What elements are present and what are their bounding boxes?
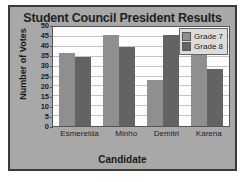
y-tick-label: 10: [41, 103, 49, 111]
y-tick-label: 35: [41, 53, 49, 61]
bar[interactable]: [207, 69, 223, 126]
x-axis-title: Candidate: [10, 154, 235, 165]
x-tick-label: Demitri: [154, 129, 179, 138]
bar-group: [147, 27, 179, 126]
bar[interactable]: [163, 35, 179, 126]
x-axis-tick-labels: EsmereldaMinhoDemitriKarena: [52, 129, 230, 138]
bar[interactable]: [59, 53, 75, 126]
bar[interactable]: [75, 57, 91, 126]
y-axis-tick-labels: 50454035302520151050: [34, 26, 49, 127]
legend-label: Grade 7: [194, 33, 223, 41]
bar[interactable]: [119, 47, 135, 126]
x-tick-label: Karena: [196, 129, 222, 138]
x-tick-label: Esmerelda: [60, 129, 98, 138]
y-tick-label: 20: [41, 83, 49, 91]
legend-item[interactable]: Grade 7: [182, 32, 223, 41]
y-tick-label: 30: [41, 63, 49, 71]
y-tick-label: 45: [41, 32, 49, 40]
y-axis-title: Number of Votes: [18, 25, 28, 103]
y-tick-label: 25: [41, 73, 49, 81]
legend-swatch-icon: [182, 32, 191, 41]
bar-group: [59, 27, 91, 126]
legend-item[interactable]: Grade 8: [182, 42, 223, 51]
chart-legend: Grade 7Grade 8: [179, 28, 228, 55]
legend-swatch-icon: [182, 42, 191, 51]
bar[interactable]: [147, 80, 163, 126]
y-tick-label: 40: [41, 42, 49, 50]
plot-wrapper: 50454035302520151050 EsmereldaMinhoDemit…: [52, 26, 230, 127]
y-tick-label: 15: [41, 93, 49, 101]
y-tick-mark: [50, 127, 53, 128]
y-tick-label: 50: [41, 22, 49, 30]
bar[interactable]: [103, 35, 119, 126]
x-tick-label: Minho: [115, 129, 137, 138]
bar[interactable]: [191, 51, 207, 126]
chart-figure: Student Council President Results Number…: [8, 5, 237, 171]
bar-group: [103, 27, 135, 126]
y-tick-label: 5: [45, 113, 49, 121]
legend-label: Grade 8: [194, 43, 223, 51]
y-tick-label: 0: [45, 123, 49, 131]
